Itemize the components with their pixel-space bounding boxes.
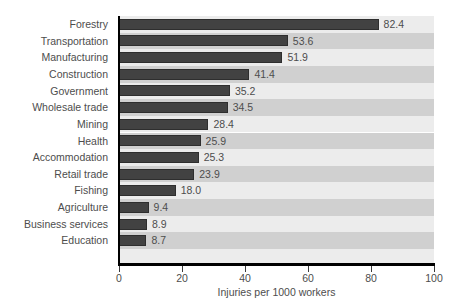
bar (119, 119, 208, 130)
bar-value-label: 9.4 (154, 202, 169, 213)
bar-row: 18.0 (119, 182, 434, 199)
bar-row: 28.4 (119, 116, 434, 133)
background-band (119, 249, 434, 264)
bar-value-label: 28.4 (213, 119, 233, 130)
category-label: Forestry (0, 16, 113, 33)
category-label: Mining (0, 116, 113, 133)
category-label: Construction (0, 66, 113, 83)
bar-value-label: 18.0 (181, 185, 201, 196)
bar-row: 23.9 (119, 166, 434, 183)
category-label: Accommodation (0, 149, 113, 166)
category-label: Health (0, 132, 113, 149)
category-label: Transportation (0, 33, 113, 50)
bar-value-label: 34.5 (233, 102, 253, 113)
x-axis-tick-label: 0 (116, 273, 122, 284)
bar-row: 8.7 (119, 232, 434, 249)
bar-row: 53.6 (119, 33, 434, 50)
bar-value-label: 53.6 (293, 36, 313, 47)
bar (119, 152, 199, 163)
x-axis-tick-label: 20 (176, 273, 188, 284)
bar (119, 102, 228, 113)
bar (119, 85, 230, 96)
bar (119, 169, 194, 180)
category-axis-labels: ForestryTransportationManufacturingConst… (0, 16, 113, 249)
bar-value-label: 35.2 (235, 86, 255, 97)
bar-row: 35.2 (119, 83, 434, 100)
bar-chart: ForestryTransportationManufacturingConst… (0, 0, 465, 302)
bar-row: 51.9 (119, 49, 434, 66)
category-label: Fishing (0, 182, 113, 199)
plot-area: 82.453.651.941.435.234.528.425.925.323.9… (119, 16, 434, 264)
x-axis-tick-label: 80 (365, 273, 377, 284)
bar-row: 34.5 (119, 99, 434, 116)
bar-value-label: 51.9 (287, 52, 307, 63)
bar (119, 235, 146, 246)
bar (119, 185, 176, 196)
bar (119, 52, 282, 63)
bar-value-label: 8.7 (151, 235, 166, 246)
bar-value-label: 25.9 (206, 136, 226, 147)
bar-value-label: 41.4 (254, 69, 274, 80)
bar-row: 41.4 (119, 66, 434, 83)
bar-series: 82.453.651.941.435.234.528.425.925.323.9… (119, 16, 434, 249)
bar-value-label: 23.9 (199, 169, 219, 180)
x-axis-line (118, 263, 435, 266)
x-axis-tick-label: 60 (302, 273, 314, 284)
x-axis-title: Injuries per 1000 workers (119, 287, 434, 298)
category-label: Business services (0, 216, 113, 233)
category-label: Retail trade (0, 166, 113, 183)
bar-row: 25.9 (119, 132, 434, 149)
category-label: Government (0, 83, 113, 100)
bar (119, 35, 288, 46)
bar-row: 82.4 (119, 16, 434, 33)
category-label: Manufacturing (0, 49, 113, 66)
bar-value-label: 25.3 (204, 152, 224, 163)
category-label: Wholesale trade (0, 99, 113, 116)
bar-row: 9.4 (119, 199, 434, 216)
bar-value-label: 8.9 (152, 219, 167, 230)
bar-value-label: 82.4 (384, 19, 404, 30)
bar (119, 219, 147, 230)
bar (119, 19, 379, 30)
x-axis-tick-label: 100 (425, 273, 443, 284)
bar (119, 202, 149, 213)
category-label: Education (0, 232, 113, 249)
y-axis-line (118, 16, 120, 264)
bar-row: 8.9 (119, 216, 434, 233)
bar (119, 69, 249, 80)
bar (119, 135, 201, 146)
category-label: Agriculture (0, 199, 113, 216)
x-axis-tick-label: 40 (239, 273, 251, 284)
bar-row: 25.3 (119, 149, 434, 166)
